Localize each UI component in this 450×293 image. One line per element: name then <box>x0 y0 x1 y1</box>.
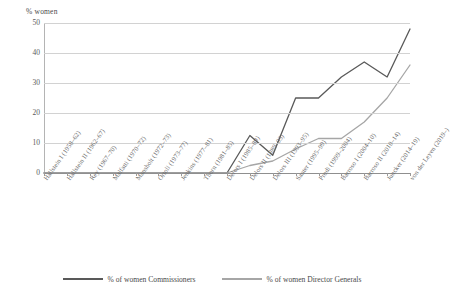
legend-label: % of women Director Generals <box>267 275 362 284</box>
x-axis-labels: Hallstein I (1958–62)Hallstein II (1962–… <box>0 173 424 265</box>
chart-legend: % of women Commissioners% of women Direc… <box>0 272 424 286</box>
legend-item-2[interactable]: % of women Director Generals <box>222 275 362 284</box>
legend-line-icon <box>222 278 262 280</box>
y-axis-tick-label: 10 <box>18 139 40 147</box>
y-axis-tick-label: 50 <box>18 19 40 27</box>
gridline <box>44 83 410 84</box>
legend-item-1[interactable]: % of women Commissioners <box>63 275 196 284</box>
y-axis-tick-label: 20 <box>18 109 40 117</box>
legend-label: % of women Commissioners <box>108 275 196 284</box>
y-axis-tick-label: 30 <box>18 79 40 87</box>
gridline <box>44 53 410 54</box>
gridline <box>44 113 410 114</box>
legend-line-icon <box>63 278 103 280</box>
y-axis-tick-label: 40 <box>18 49 40 57</box>
gridline <box>44 23 410 24</box>
